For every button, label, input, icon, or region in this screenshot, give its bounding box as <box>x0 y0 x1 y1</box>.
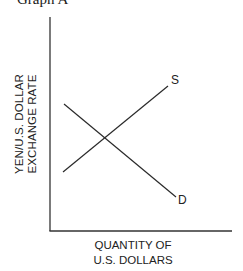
supply-label: S <box>171 73 179 87</box>
y-axis-label: YEN/U.S. DOLLAR EXCHANGE RATE <box>13 54 39 194</box>
supply-curve <box>63 86 168 172</box>
x-axis-label: QUANTITY OF U.S. DOLLARS <box>93 238 172 268</box>
demand-curve <box>64 104 176 197</box>
x-axis-label-line2: U.S. DOLLARS <box>93 253 172 268</box>
y-axis-label-line2: EXCHANGE RATE <box>26 54 39 194</box>
demand-label: D <box>178 193 187 207</box>
y-axis-label-line1: YEN/U.S. DOLLAR <box>13 54 26 194</box>
x-axis-label-line1: QUANTITY OF <box>93 238 172 253</box>
